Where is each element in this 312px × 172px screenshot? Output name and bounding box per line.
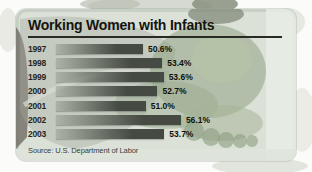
- title-underline: [28, 36, 282, 38]
- year-label: 1997: [28, 44, 56, 54]
- chart-row: 2003 53.7%: [28, 129, 284, 140]
- bar: [56, 86, 157, 96]
- chart-row: 1998 53.4%: [28, 57, 284, 68]
- year-label: 1998: [28, 58, 56, 68]
- bar: [56, 44, 143, 54]
- bar: [56, 101, 146, 111]
- source-note: Source: U.S. Department of Labor: [28, 146, 138, 155]
- value-label: 52.7%: [162, 86, 186, 96]
- chart-title: Working Women with Infants: [28, 17, 284, 33]
- infographic: Working Women with Infants 1997 50.6% 19…: [0, 0, 312, 172]
- value-label: 56.1%: [186, 115, 210, 125]
- value-label: 51.0%: [151, 101, 175, 111]
- bar: [56, 72, 164, 82]
- year-label: 2002: [28, 115, 56, 125]
- year-label: 2001: [28, 101, 56, 111]
- chart-card: Working Women with Infants 1997 50.6% 19…: [16, 9, 296, 161]
- chart-row: 2002 56.1%: [28, 115, 284, 126]
- year-label: 2003: [28, 129, 56, 139]
- year-label: 2000: [28, 86, 56, 96]
- chart-row: 2000 52.7%: [28, 86, 284, 97]
- bar: [56, 115, 181, 125]
- value-label: 53.7%: [169, 129, 193, 139]
- chart-row: 1997 50.6%: [28, 43, 284, 54]
- year-label: 1999: [28, 72, 56, 82]
- bar: [56, 58, 162, 68]
- chart-content: Working Women with Infants 1997 50.6% 19…: [16, 9, 296, 161]
- chart-row: 1999 53.6%: [28, 72, 284, 83]
- bar-chart: 1997 50.6% 1998 53.4% 1999 53.6% 2000 52…: [28, 43, 284, 140]
- value-label: 53.4%: [167, 58, 191, 68]
- value-label: 50.6%: [148, 44, 172, 54]
- bar: [56, 129, 164, 139]
- chart-row: 2001 51.0%: [28, 100, 284, 111]
- value-label: 53.6%: [169, 72, 193, 82]
